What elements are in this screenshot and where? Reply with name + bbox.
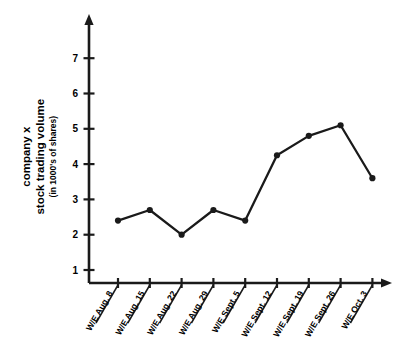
x-axis-category-labels: W/E Aug. 8W/E Aug. 15W/E Aug. 22W/E Aug.… (84, 285, 373, 339)
y-axis-tick-label: 4 (72, 159, 78, 170)
y-axis-tick-label: 7 (72, 53, 78, 64)
y-axis-tick-label: 1 (72, 265, 78, 276)
y-axis-ticks: 1234567 (72, 53, 94, 276)
data-point-marker (210, 207, 216, 213)
x-axis-category-label: W/E Sept. 26 (303, 289, 338, 339)
data-point-marker (306, 133, 312, 139)
x-axis-category-label: W/E Aug. 22 (145, 289, 178, 337)
x-axis-category-label: W/E Sept. 12 (239, 289, 274, 339)
plot-area: 1234567 W/E Aug. 8W/E Aug. 15W/E Aug. 22… (0, 0, 406, 352)
y-axis-tick-label: 6 (72, 88, 78, 99)
x-axis-category-label: W/E Aug. 15 (113, 289, 146, 337)
data-point-marker (242, 217, 248, 223)
x-axis-category-label: W/E Aug. 29 (177, 289, 210, 337)
y-axis-tick-label: 5 (72, 123, 78, 134)
y-axis-tick-label: 2 (72, 229, 78, 240)
x-axis-category-label: W/E Sept. 19 (271, 289, 306, 339)
x-axis-category-label: W/E Oct. 3 (339, 289, 369, 331)
data-point-marker (369, 175, 375, 181)
axes (84, 14, 392, 288)
x-axis-category-label: W/E Sept. 5 (210, 289, 242, 335)
data-point-markers (115, 122, 376, 238)
data-point-marker (274, 152, 280, 158)
line-chart: company x stock trading volume (in 1000'… (0, 0, 406, 352)
data-point-marker (179, 232, 185, 238)
x-axis-category-label: W/E Aug. 8 (84, 289, 115, 333)
data-point-marker (147, 207, 153, 213)
y-axis-tick-label: 3 (72, 194, 78, 205)
data-point-marker (115, 217, 121, 223)
data-point-marker (338, 122, 344, 128)
